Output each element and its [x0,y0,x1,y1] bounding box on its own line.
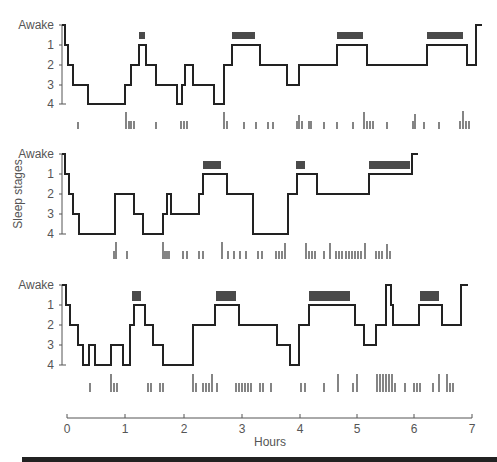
hypnogram-line [62,154,418,234]
rem-bars [132,291,439,301]
panel-1: Awake 1 2 3 4 [18,18,482,129]
x-tick-6: 6 [411,422,418,436]
y-label-3: 3 [47,207,54,221]
movement-ticks [114,242,390,259]
y-label-4: 4 [47,358,54,372]
y-label-2: 2 [47,187,54,201]
x-tick-0: 0 [64,422,71,436]
y-label-1: 1 [47,167,54,181]
movement-ticks [90,374,453,392]
rem-bars [203,161,410,169]
y-axis-title: Sleep stages [11,159,25,228]
y-label-awake: Awake [18,278,54,292]
y-label-2: 2 [47,58,54,72]
x-tick-2: 2 [181,422,188,436]
y-label-4: 4 [47,227,54,241]
y-label-1: 1 [47,38,54,52]
panel-2: Awake 1 2 3 4 Sleep stages [11,147,418,259]
y-label-awake: Awake [18,147,54,161]
hypnogram-line [62,25,482,104]
x-tick-4: 4 [297,422,304,436]
y-label-awake: Awake [18,18,54,32]
movement-ticks [78,111,469,129]
rem-bars [139,32,463,39]
x-tick-1: 1 [122,422,129,436]
x-tick-5: 5 [354,422,361,436]
y-label-2: 2 [47,318,54,332]
y-axis [59,285,66,365]
x-tick-3: 3 [239,422,246,436]
hypnogram-figure: Awake 1 2 3 4 [0,0,497,462]
x-axis-title: Hours [254,435,286,449]
y-label-1: 1 [47,298,54,312]
x-axis: 0 1 2 3 4 5 6 7 Hours [64,414,476,449]
bottom-rule [22,457,497,462]
panel-3: Awake 1 2 3 4 [18,278,468,392]
x-tick-7: 7 [469,422,476,436]
y-label-3: 3 [47,338,54,352]
y-label-3: 3 [47,78,54,92]
hypnogram-line [62,285,468,365]
y-label-4: 4 [47,97,54,111]
